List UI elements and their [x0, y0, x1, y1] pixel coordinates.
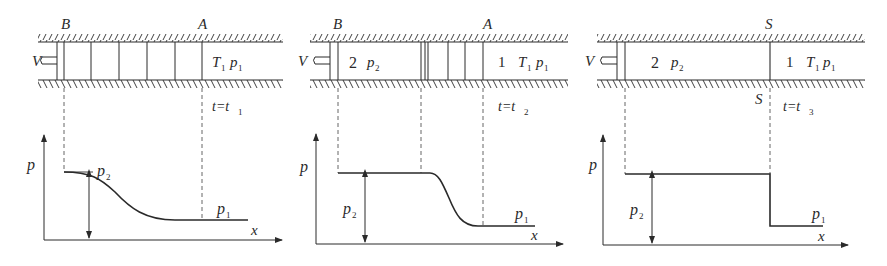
svg-text:1: 1 — [786, 54, 794, 70]
projection-lines — [64, 88, 202, 220]
projection-lines — [338, 88, 483, 226]
pressure-plot: p x p 2 p 1 — [299, 134, 563, 244]
y-axis-label: p — [588, 156, 597, 174]
svg-text:p: p — [514, 205, 523, 223]
svg-text:1: 1 — [238, 107, 243, 117]
svg-text:2: 2 — [524, 107, 529, 117]
svg-text:1: 1 — [544, 63, 549, 73]
compression-waves — [91, 42, 202, 80]
svg-text:1: 1 — [527, 63, 532, 73]
shock-formation-diagram: V B A T 1 p 1 t=t 1 p x p 2 p 1 — [0, 0, 887, 266]
x-axis-label: x — [250, 222, 258, 238]
panel-t1: V B A T 1 p 1 t=t 1 p x p 2 p 1 — [26, 16, 283, 240]
x-axis-label: x — [530, 227, 538, 243]
velocity-label: V — [298, 53, 309, 69]
point-b-label: B — [61, 16, 70, 32]
velocity-label: V — [585, 53, 596, 69]
svg-text:1: 1 — [221, 63, 226, 73]
region-2-state: 2 p 2 — [651, 54, 684, 73]
piston-rod — [41, 57, 58, 64]
svg-text:3: 3 — [809, 107, 814, 117]
svg-text:p: p — [811, 205, 820, 223]
bottom-wall-hatch — [38, 80, 283, 88]
svg-text:2: 2 — [639, 211, 644, 221]
svg-text:1: 1 — [226, 210, 231, 220]
svg-text:2: 2 — [679, 63, 684, 73]
svg-text:1: 1 — [498, 54, 506, 70]
svg-text:2: 2 — [106, 172, 111, 182]
svg-text:p: p — [366, 54, 375, 70]
time-label: t=t 3 — [783, 99, 814, 117]
svg-text:t=t: t=t — [783, 99, 801, 114]
svg-text:2: 2 — [352, 210, 357, 220]
region-1-state: 1 T 1 p 1 — [786, 54, 836, 73]
pressure-plot: p x p 2 p 1 — [26, 135, 282, 240]
piston — [314, 42, 339, 80]
time-label: t=t 2 — [498, 99, 529, 117]
shock-s-label-bottom: S — [755, 91, 763, 107]
piston — [41, 42, 65, 80]
svg-text:p: p — [229, 54, 238, 70]
svg-text:p: p — [216, 200, 225, 218]
svg-text:2: 2 — [375, 63, 380, 73]
svg-text:1: 1 — [238, 63, 243, 73]
pressure-plot: p x p 2 p 1 — [588, 135, 848, 245]
y-axis-label: p — [26, 156, 35, 174]
svg-text:p: p — [629, 201, 638, 219]
svg-text:t=t: t=t — [212, 99, 230, 114]
region-2-state: 2 p 2 — [349, 54, 380, 73]
svg-text:1: 1 — [821, 215, 826, 225]
projection-lines — [625, 88, 770, 174]
svg-text:p: p — [535, 54, 544, 70]
point-a-label: A — [482, 16, 493, 32]
time-label: t=t 1 — [212, 99, 243, 117]
y-axis-label: p — [299, 158, 308, 176]
point-a-label: A — [197, 16, 208, 32]
svg-text:1: 1 — [831, 63, 836, 73]
region-1-state: T 1 p 1 — [212, 54, 243, 73]
panel-t2: V B A 2 p 2 1 T 1 p 1 t=t 2 p x — [298, 16, 568, 244]
tube — [38, 34, 283, 88]
piston — [601, 42, 626, 80]
point-b-label: B — [333, 16, 342, 32]
svg-text:p: p — [96, 162, 105, 180]
compression-waves — [421, 42, 483, 80]
region-1-state: 1 T 1 p 1 — [498, 54, 549, 73]
svg-text:1: 1 — [815, 63, 820, 73]
svg-text:1: 1 — [524, 215, 529, 225]
pressure-curve — [338, 173, 535, 226]
svg-text:t=t: t=t — [498, 99, 516, 114]
svg-text:2: 2 — [651, 54, 659, 71]
pressure-curve — [625, 174, 823, 226]
panel-t3: V S S 2 p 2 1 T 1 p 1 t=t 3 p x — [585, 16, 865, 245]
top-wall-hatch — [38, 34, 283, 42]
shock-s-label-top: S — [765, 16, 773, 32]
velocity-label: V — [32, 53, 43, 69]
svg-text:2: 2 — [349, 54, 357, 71]
svg-text:p: p — [822, 54, 831, 70]
svg-text:p: p — [342, 200, 351, 218]
svg-text:p: p — [670, 54, 679, 70]
x-axis-label: x — [817, 228, 825, 244]
